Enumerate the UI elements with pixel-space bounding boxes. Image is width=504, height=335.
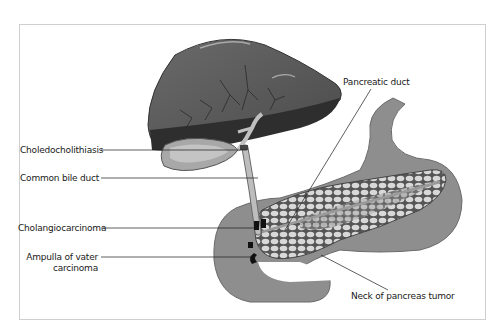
label-neck-of-pancreas-tumor: Neck of pancreas tumor	[351, 291, 455, 301]
label-pancreatic-duct: Pancreatic duct	[343, 77, 409, 87]
label-choledocholithiasis: Choledocholithiasis	[20, 145, 98, 155]
bile-duct-stone	[240, 145, 248, 150]
label-ampulla-line1: Ampulla of vater	[20, 252, 98, 262]
cholangiocarcinoma-mass	[254, 221, 259, 230]
label-common-bile-duct: Common bile duct	[20, 173, 98, 183]
label-ampulla-line2: carcinoma	[20, 263, 98, 273]
label-cholangiocarcinoma: Cholangiocarcinoma	[18, 223, 98, 233]
liver	[148, 39, 341, 152]
anatomy-illustration	[0, 0, 504, 335]
